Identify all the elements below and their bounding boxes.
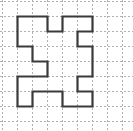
figure-container: [0, 0, 133, 131]
grid-polygon-figure: [0, 0, 133, 131]
grid-lines: [0, 0, 133, 131]
